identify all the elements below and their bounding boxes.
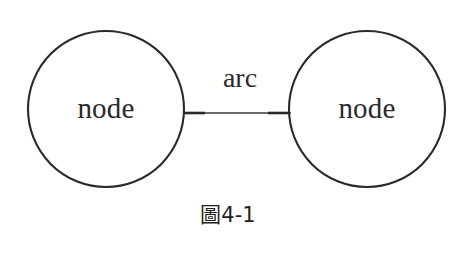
node-left-label: node <box>46 94 166 123</box>
figure-canvas: node node arc 圖4-1 <box>0 0 476 255</box>
node-right-label: node <box>307 94 427 123</box>
figure-caption: 圖4-1 <box>148 204 308 227</box>
arc-edge-label: arc <box>195 64 285 92</box>
